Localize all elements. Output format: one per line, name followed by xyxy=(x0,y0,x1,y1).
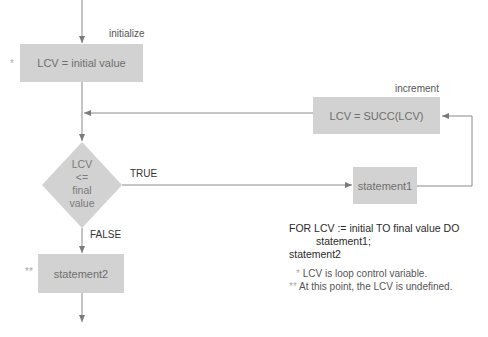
statement1-text: statement1 xyxy=(358,180,412,192)
statement2-text: statement2 xyxy=(54,268,108,280)
note-2-text: At this point, the LCV is undefined. xyxy=(299,281,452,292)
note-2-marker: ** xyxy=(289,281,297,292)
code-line-2: statement1; xyxy=(316,235,371,248)
statement2-marker: ** xyxy=(25,266,33,277)
decision-line-4: value xyxy=(52,197,112,210)
true-label: TRUE xyxy=(130,168,157,179)
decision-line-3: final xyxy=(52,184,112,197)
code-line-3: statement2 xyxy=(289,248,341,261)
init-box: LCV = initial value xyxy=(20,44,143,82)
false-label: FALSE xyxy=(90,229,121,240)
init-box-text: LCV = initial value xyxy=(37,57,125,69)
increment-box: LCV = SUCC(LCV) xyxy=(313,97,440,134)
increment-box-text: LCV = SUCC(LCV) xyxy=(330,110,424,122)
decision-line-1: LCV xyxy=(52,158,112,171)
decision-text: LCV <= final value xyxy=(52,158,112,210)
note-2: ** At this point, the LCV is undefined. xyxy=(289,281,452,292)
code-line-1: FOR LCV := initial TO final value DO xyxy=(289,222,459,235)
statement2-box: statement2 xyxy=(38,254,124,293)
initialize-label: initialize xyxy=(109,28,145,39)
note-1-text: LCV is loop control variable. xyxy=(303,268,428,279)
increment-label: increment xyxy=(395,83,439,94)
note-1-marker: * xyxy=(296,268,300,279)
decision-line-2: <= xyxy=(52,171,112,184)
note-1: * LCV is loop control variable. xyxy=(296,268,427,279)
init-marker: * xyxy=(10,58,14,69)
statement1-box: statement1 xyxy=(353,167,417,204)
